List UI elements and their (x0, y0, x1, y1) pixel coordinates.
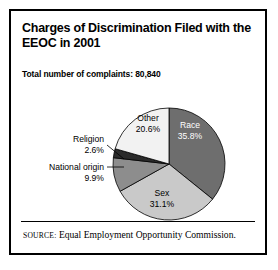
pie-label-national-origin-value: 9.9% (84, 173, 104, 183)
pie-label-religion-name: Religion (73, 134, 104, 144)
pie-label-religion-value: 2.6% (84, 145, 104, 155)
source-text: Equal Employment Opportunity Commission. (59, 229, 236, 240)
source-divider (21, 221, 255, 222)
chart-figure: Charges of Discrimination Filed with the… (9, 9, 267, 255)
pie-label-other-value: 20.6% (136, 124, 161, 134)
pie-label-national-origin-name: National origin (49, 162, 104, 172)
source-note: SOURCE: Equal Employment Opportunity Com… (23, 229, 259, 240)
pie-chart-svg: Race 35.8% Sex 31.1% Other 20.6% Religio… (11, 83, 265, 223)
chart-title: Charges of Discrimination Filed with the… (22, 21, 258, 51)
source-prefix: SOURCE: (23, 231, 56, 240)
pie-label-sex-name: Sex (155, 188, 171, 198)
pie-chart-plot: Race 35.8% Sex 31.1% Other 20.6% Religio… (11, 83, 265, 223)
pie-label-race-value: 35.8% (178, 131, 203, 141)
pie-label-race-name: Race (180, 120, 200, 130)
pie-label-other-name: Other (137, 113, 159, 123)
pie-label-sex-value: 31.1% (150, 199, 175, 209)
chart-subtitle: Total number of complaints: 80,840 (22, 69, 161, 79)
